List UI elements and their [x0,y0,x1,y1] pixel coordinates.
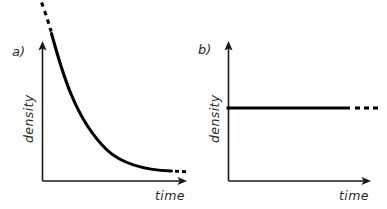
figure-container: a) density time [0,0,387,209]
panel-a-x-axis-label: time [155,188,185,203]
panel-b-y-axis-label: density [207,94,222,143]
panel-b-label: b) [198,42,211,57]
density-time-figure: a) density time [0,0,387,209]
panel-a-y-axis-label: density [21,94,36,143]
panel-b-y-axis [224,41,232,181]
panel-a-x-axis [43,177,188,185]
panel-a-label: a) [12,44,25,59]
panel-b-x-axis-label: time [339,188,369,203]
panel-a-density-curve [52,34,172,172]
panel-a-curve-dashed-upper [42,3,52,32]
panel-a-curve-dashed-lower [175,171,186,172]
panel-a-y-axis [38,41,46,181]
panel-a: a) density time [12,3,187,204]
panel-b-x-axis [229,177,372,185]
panel-b: b) density time [198,41,378,203]
